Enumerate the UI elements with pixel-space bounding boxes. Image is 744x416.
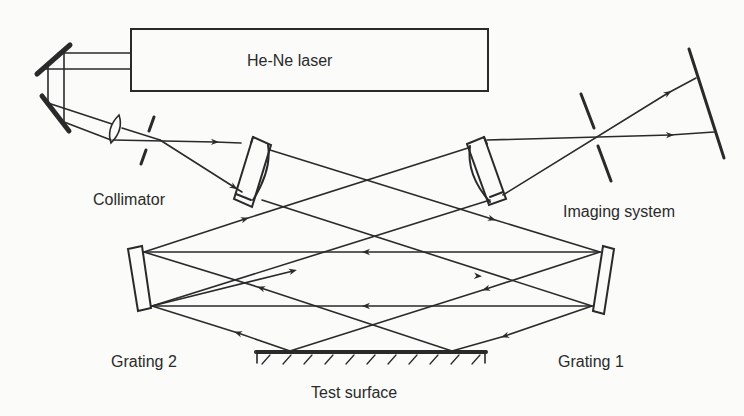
interferometer-diagram: He-Ne laser Collimator Imaging system Gr… [0,0,744,416]
cross-beams [144,148,600,306]
imaging-beams [487,78,714,195]
meniscus-lens-left [234,137,271,207]
collimator-beams [113,128,242,192]
grating-1 [593,246,614,314]
collimator-label: Collimator [93,191,166,208]
fold-mirror-lower [42,96,69,131]
beams-to-collimator [48,103,112,140]
imaging-system-label: Imaging system [563,203,675,220]
test-surface [256,352,486,364]
laser-label: He-Ne laser [247,52,333,69]
grating-2-label: Grating 2 [111,353,177,370]
imaging-screen [689,49,724,158]
meniscus-lens-right [467,137,506,205]
collimator-lens [110,115,121,143]
test-surface-label: Test surface [311,384,397,401]
grating-beams [144,252,600,351]
grating-2 [128,246,151,311]
grating-1-label: Grating 1 [558,353,624,370]
